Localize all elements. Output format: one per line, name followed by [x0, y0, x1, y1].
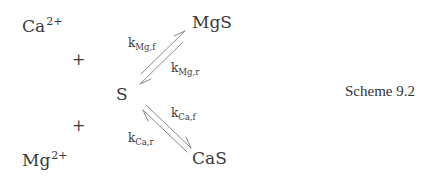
arrow-mg-forward-icon: [141, 31, 185, 74]
arrow-ca-reverse-icon: [143, 110, 187, 152]
arrow-ca-forward-icon: [146, 105, 191, 148]
scheme-caption: Scheme 9.2: [345, 84, 415, 99]
arrow-mg-reverse-icon: [140, 42, 183, 84]
